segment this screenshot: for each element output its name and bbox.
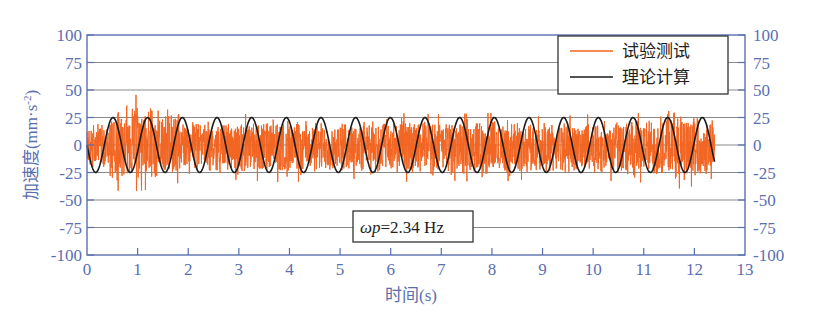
y-tick-label-right: -75 bbox=[753, 219, 776, 238]
acceleration-time-chart: 1007550250-25-50-75-100 1007550250-25-50… bbox=[0, 0, 817, 325]
y-tick-label-right: 100 bbox=[753, 26, 779, 45]
x-tick-label: 6 bbox=[386, 260, 395, 279]
x-tick-label: 8 bbox=[488, 260, 497, 279]
y-tick-label-right: -100 bbox=[753, 246, 784, 265]
annotation-value: =2.34 Hz bbox=[381, 218, 445, 237]
measured-path bbox=[87, 95, 715, 191]
y-axis-right-labels: 1007550250-25-50-75-100 bbox=[753, 26, 784, 265]
y-tick-label-right: 25 bbox=[753, 109, 770, 128]
y-tick-label-left: 100 bbox=[57, 26, 83, 45]
x-tick-label: 3 bbox=[235, 260, 244, 279]
x-tick-label: 9 bbox=[538, 260, 547, 279]
y-tick-label-right: -25 bbox=[753, 164, 776, 183]
annotation-symbol: ωp bbox=[360, 218, 381, 237]
y-tick-label-left: 0 bbox=[74, 136, 83, 155]
x-tick-label: 10 bbox=[585, 260, 602, 279]
y-tick-label-left: -75 bbox=[59, 219, 82, 238]
legend-label-measured: 试验测试 bbox=[622, 41, 690, 61]
y-axis-title-sup: -2 bbox=[21, 96, 33, 105]
x-tick-label: 7 bbox=[437, 260, 446, 279]
y-axis-title: 加速度(mm·s-2) bbox=[21, 90, 41, 200]
y-tick-label-left: -100 bbox=[51, 246, 82, 265]
y-tick-label-left: -50 bbox=[59, 191, 82, 210]
y-tick-label-right: 75 bbox=[753, 54, 770, 73]
x-tick-label: 5 bbox=[336, 260, 345, 279]
y-axis-left-labels: 1007550250-25-50-75-100 bbox=[51, 26, 82, 265]
y-tick-label-right: 50 bbox=[753, 81, 770, 100]
x-tick-label: 11 bbox=[636, 260, 652, 279]
x-tick-label: 4 bbox=[285, 260, 294, 279]
x-axis-labels: 012345678910111213 bbox=[83, 260, 754, 279]
y-tick-label-right: 0 bbox=[753, 136, 762, 155]
series-measured-line bbox=[87, 95, 715, 191]
x-tick-label: 12 bbox=[686, 260, 703, 279]
x-tick-label: 0 bbox=[83, 260, 92, 279]
annotation-text: ωp=2.34 Hz bbox=[360, 218, 444, 237]
legend-label-theoretical: 理论计算 bbox=[622, 67, 690, 87]
y-axis-title-close: ) bbox=[22, 90, 41, 96]
x-tick-label: 2 bbox=[184, 260, 193, 279]
y-tick-label-left: -25 bbox=[59, 164, 82, 183]
x-axis-title: 时间(s) bbox=[385, 286, 437, 305]
y-tick-label-right: -50 bbox=[753, 191, 776, 210]
x-tick-label: 1 bbox=[133, 260, 142, 279]
y-tick-label-left: 25 bbox=[65, 109, 82, 128]
y-tick-label-left: 50 bbox=[65, 81, 82, 100]
legend: 试验测试 理论计算 bbox=[558, 36, 728, 94]
y-tick-label-left: 75 bbox=[65, 54, 82, 73]
y-axis-title-main: 加速度(mm·s bbox=[22, 105, 41, 200]
frequency-annotation: ωp=2.34 Hz bbox=[353, 211, 473, 242]
x-tick-label: 13 bbox=[737, 260, 754, 279]
